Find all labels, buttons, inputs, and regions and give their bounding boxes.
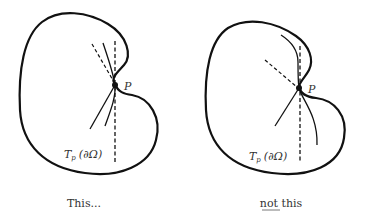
left-dashed-secant <box>92 44 114 82</box>
right-tangent-label-sub: p <box>256 156 261 164</box>
tangent-comparison-figure: P Tp(∂Ω) This... P Tp( <box>0 0 365 221</box>
right-point-label: P <box>307 83 316 96</box>
left-panel: P Tp(∂Ω) This... <box>20 13 158 210</box>
right-tangent-label-arg: (∂Ω) <box>264 150 287 163</box>
right-caption-underlined: not <box>260 197 279 210</box>
right-tangent-label: Tp(∂Ω) <box>249 150 287 164</box>
right-dashed-secant <box>265 60 298 88</box>
right-point-p <box>296 85 302 91</box>
right-caption: not this <box>260 197 303 210</box>
left-tangent-label-arg: (∂Ω) <box>79 148 102 161</box>
left-tangent-label: Tp(∂Ω) <box>64 148 102 162</box>
left-caption: This... <box>67 197 101 210</box>
left-point-label: P <box>123 80 132 93</box>
right-caption-rest: this <box>278 197 303 210</box>
left-point-p <box>112 82 118 88</box>
right-solid-line <box>275 88 299 126</box>
left-tangent-label-sub: p <box>71 154 76 162</box>
right-panel: P Tp(∂Ω) not this <box>206 22 345 210</box>
